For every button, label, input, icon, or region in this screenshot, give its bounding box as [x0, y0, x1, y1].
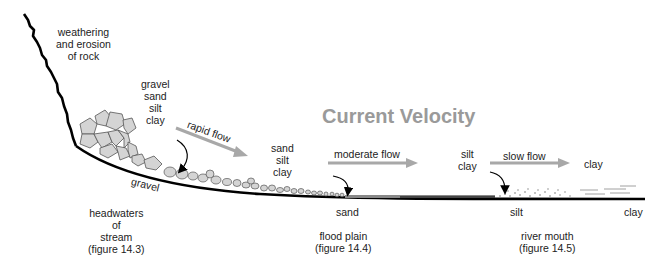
label-line: gravel	[141, 78, 170, 90]
sand-bed-label: sand	[336, 206, 359, 218]
silt-stipple	[499, 188, 571, 197]
label-line: clay	[271, 166, 294, 178]
river-mouth-region-label: river mouth (figure 14.5)	[519, 230, 576, 254]
label-line: weathering	[56, 26, 111, 38]
label-line: river mouth	[519, 230, 576, 242]
label-line: flood plain	[315, 230, 372, 242]
clay-laminae	[580, 186, 636, 194]
label-line: clay	[458, 160, 477, 172]
label-line: sand	[141, 90, 170, 102]
slow-flow-label: slow flow	[503, 150, 546, 162]
label-line: and erosion	[56, 38, 111, 50]
label-line: of	[88, 219, 145, 231]
label-line: headwaters	[88, 207, 145, 219]
label-line: (figure 14.4)	[315, 242, 372, 254]
moderate-flow-label: moderate flow	[334, 148, 400, 160]
weathering-label: weathering and erosion of rock	[56, 26, 111, 62]
silt-bed-label: silt	[510, 206, 523, 218]
headwater-load-label: gravel sand silt clay	[141, 78, 170, 126]
label-line: silt	[458, 148, 477, 160]
floodplain-load-label: sand silt clay	[271, 142, 294, 178]
headwaters-region-label: headwaters of stream (figure 14.3)	[88, 207, 145, 255]
label-line: sand	[271, 142, 294, 154]
clay-bed-label: clay	[624, 206, 643, 218]
label-line: silt	[271, 154, 294, 166]
mouth-load-label: silt clay	[458, 148, 477, 172]
label-line: of rock	[56, 50, 111, 62]
flood-plain-region-label: flood plain (figure 14.4)	[315, 230, 372, 254]
fine-sediment	[345, 195, 495, 198]
label-line: clay	[141, 114, 170, 126]
diagram-title: Current Velocity	[322, 105, 475, 128]
offshore-clay-label: clay	[584, 158, 603, 170]
label-line: stream	[88, 231, 145, 243]
label-line: (figure 14.5)	[519, 242, 576, 254]
label-line: silt	[141, 102, 170, 114]
label-line: (figure 14.3)	[88, 243, 145, 255]
